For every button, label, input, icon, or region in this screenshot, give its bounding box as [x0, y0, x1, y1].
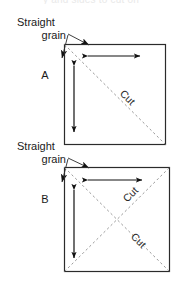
diagram-letter-a: A [41, 69, 49, 81]
fabric-grain-cutting-diagram: Straight grain Cut A Straight grain [0, 0, 182, 283]
diagram-b: Straight grain Cut Cut B [17, 140, 170, 272]
grain-label-b-line1: Straight [17, 140, 55, 152]
diagram-a: Straight grain Cut A [17, 16, 166, 145]
grain-label-b-line2: grain [42, 153, 66, 165]
cut-label-a-1: Cut [118, 87, 138, 107]
diagram-letter-b: B [41, 193, 48, 205]
cut-label-b-1: Cut [120, 184, 140, 204]
cut-line-a [65, 45, 166, 145]
cut-label-b-2: Cut [129, 230, 149, 250]
grain-label-a-line2: grain [42, 29, 66, 41]
grain-label-a-line1: Straight [17, 16, 55, 28]
